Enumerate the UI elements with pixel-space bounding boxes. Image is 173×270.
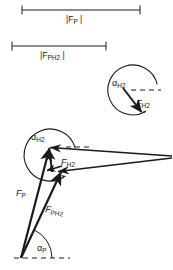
inset-f-h2-label: FH2 xyxy=(136,99,150,108)
scale-bar-fp-label: |FP | xyxy=(66,15,82,24)
main-alpha-h2-label: αH2 xyxy=(31,133,45,142)
scale-bar-fph2 xyxy=(12,42,106,51)
scale-bar-fph2-label: |FPH2 | xyxy=(40,51,65,60)
main-alpha-p-label: αP xyxy=(37,244,47,253)
inset-f-h2-label-sub: H2 xyxy=(142,102,150,109)
scale-bar-fph2-label-tail: | xyxy=(60,50,65,60)
vector-force-diagram-figure: |FP | |FPH2 | αH2 FH2 αH2 FH2 FP FPH2 αP xyxy=(0,0,173,270)
inset-f-h2-label-base: F xyxy=(136,98,142,108)
scale-bar-fp-label-tail: | xyxy=(78,14,83,24)
main-f-p-label-base: F xyxy=(16,188,22,198)
figure-canvas xyxy=(0,0,173,270)
main-vector-diagram xyxy=(14,129,172,258)
main-f-h2-label-base: F xyxy=(61,157,67,167)
main-f-h2-label-sub: H2 xyxy=(67,161,75,168)
scale-bar-fp-label-sub: P xyxy=(73,18,77,25)
inset-alpha-h2-label-sub: H2 xyxy=(117,82,125,89)
main-alpha-p-label-sub: P xyxy=(42,247,46,254)
inset-alpha-h2-label: αH2 xyxy=(112,79,126,88)
main-f-h2-label: FH2 xyxy=(61,158,75,167)
main-f-p-label: FP xyxy=(16,189,26,198)
inset-alpha-h2-diagram xyxy=(108,65,161,115)
scale-bar-fph2-label-sub: PH2 xyxy=(47,54,60,61)
main-f-p-label-sub: P xyxy=(22,192,26,199)
main-alpha-h2-label-sub: H2 xyxy=(36,136,44,143)
